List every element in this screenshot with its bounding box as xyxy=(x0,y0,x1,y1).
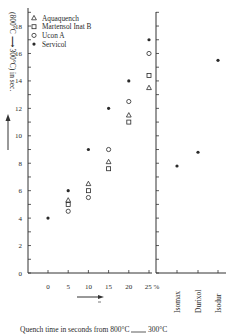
category-label-isodur: Isodur xyxy=(214,293,223,313)
triangle-marker xyxy=(86,181,91,185)
triangle-marker xyxy=(126,113,131,117)
circle-marker xyxy=(147,51,151,55)
circle-marker xyxy=(66,209,70,213)
y-tick-label: 16 xyxy=(15,50,23,58)
y-tick-label: 6 xyxy=(19,187,23,195)
star-marker xyxy=(46,217,49,220)
circle-marker xyxy=(107,147,111,151)
right-panel-axes: IsomaxDurixolIsodur xyxy=(156,12,226,313)
star-marker xyxy=(216,59,219,62)
legend: AquaquenchMartensol Inat BUcon AServicol xyxy=(32,14,92,49)
y-tick-label: 8 xyxy=(19,160,23,168)
square-marker xyxy=(66,202,70,206)
x-tick-label: 15 xyxy=(105,283,113,291)
legend-label: Aquaquench xyxy=(42,14,79,23)
square-marker xyxy=(86,189,90,193)
star-marker xyxy=(67,189,70,192)
y-tick-label: 2 xyxy=(19,242,23,250)
triangle-marker xyxy=(147,85,152,89)
svg-text:Quench time in seconds from 80: Quench time in seconds from 800°C xyxy=(20,325,129,334)
legend-label: Ucon A xyxy=(42,31,65,40)
star-marker xyxy=(87,148,90,151)
y-tick-label: 14 xyxy=(15,77,23,85)
y-tick-label: 0 xyxy=(19,270,23,278)
y-tick-label: 12 xyxy=(15,105,23,113)
star-marker xyxy=(196,151,199,154)
square-marker xyxy=(127,120,131,124)
circle-marker xyxy=(32,33,36,37)
chart-svg: (800°C ⟶ 300°C) in sec. 0246810121416180… xyxy=(0,0,228,335)
square-marker xyxy=(32,25,36,29)
square-marker xyxy=(147,73,151,77)
star-marker xyxy=(32,43,35,46)
x-tick-label: 5 xyxy=(66,283,70,291)
x-tick-label: 10 xyxy=(85,283,93,291)
legend-label: Martensol Inat B xyxy=(42,22,92,31)
x-tick-label: 0 xyxy=(46,283,50,291)
y-tick-label: 10 xyxy=(15,132,23,140)
star-marker xyxy=(127,79,130,82)
circle-marker xyxy=(127,99,131,103)
x-tick-label: 20 xyxy=(125,283,133,291)
x-axis-label: Quench time in seconds from 800°C 300°C xyxy=(20,325,167,334)
legend-label: Servicol xyxy=(42,40,66,49)
y-tick-label: 18 xyxy=(15,23,23,31)
star-marker xyxy=(175,164,178,167)
triangle-marker xyxy=(66,198,71,202)
category-label-isomax: Isomax xyxy=(173,291,182,313)
y-tick-label: 4 xyxy=(19,215,23,223)
x-tick-label: 25 % xyxy=(145,283,160,291)
star-marker xyxy=(147,38,150,41)
category-label-durixol: Durixol xyxy=(194,290,203,313)
x-direction-arrow xyxy=(77,295,104,302)
triangle-marker xyxy=(106,159,111,163)
data-points xyxy=(46,38,219,220)
triangle-marker xyxy=(32,15,37,19)
square-marker xyxy=(107,167,111,171)
star-marker xyxy=(107,107,110,110)
circle-marker xyxy=(86,195,90,199)
svg-text:300°C: 300°C xyxy=(148,325,167,334)
quench-time-chart: (800°C ⟶ 300°C) in sec. 0246810121416180… xyxy=(0,0,228,335)
